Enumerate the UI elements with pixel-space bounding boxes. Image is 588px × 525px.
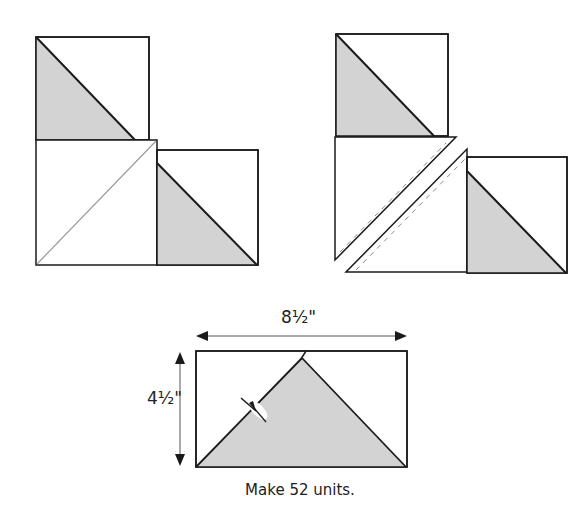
hst-square-top-2 [336, 34, 448, 136]
hst-square-top [36, 37, 149, 140]
hst-square-right-2 [467, 157, 567, 273]
hst-square-right [157, 150, 258, 265]
step-2-figure [335, 34, 567, 273]
step-3-figure [175, 331, 407, 467]
height-dimension-label: 4½" [147, 388, 182, 408]
height-dimension-arrow [175, 352, 185, 466]
width-dimension-arrow [196, 331, 407, 341]
width-dimension-label: 8½" [281, 307, 316, 327]
finished-unit [196, 351, 407, 467]
large-white-square [36, 140, 157, 265]
instruction-caption: Make 52 units. [0, 481, 588, 499]
step-1-figure [36, 37, 258, 265]
quilt-diagram [0, 0, 588, 525]
